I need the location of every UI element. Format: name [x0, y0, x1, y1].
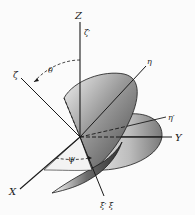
label-x: X [8, 186, 17, 197]
label-z: Z [74, 10, 83, 21]
label-zeta: ζ [13, 70, 19, 80]
theta-arrow-icon [34, 78, 39, 82]
label-eta: η [147, 57, 152, 66]
label-zeta-prime: ζ′ [84, 28, 90, 37]
euler-angle-diagram: Z ζ′ ζ θ η η′ Y X ψ ξ′ ξ [0, 0, 195, 215]
label-psi: ψ [68, 154, 76, 164]
label-theta: θ [48, 66, 53, 75]
label-y: Y [175, 132, 183, 143]
label-eta-prime: η′ [168, 113, 175, 122]
theta-arc [34, 60, 80, 82]
label-xi-prime-xi: ξ′ ξ [100, 201, 114, 210]
